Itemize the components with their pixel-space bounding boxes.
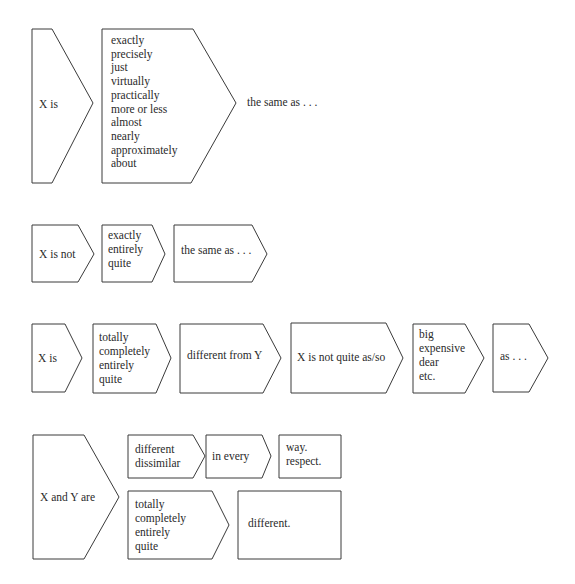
label-adjectives: big expensive dear etc. [419, 327, 465, 383]
label-totally-quite: totally completely entirely quite [99, 330, 150, 386]
label-line: expensive [419, 341, 465, 355]
label-line: X is [39, 97, 58, 111]
label-line: completely [135, 511, 186, 525]
label-line: completely [99, 344, 150, 358]
label-in-every: in every [212, 449, 249, 463]
label-line: dissimilar [135, 456, 180, 470]
label-line: totally [135, 497, 186, 511]
label-the-same-as-tail: the same as . . . [247, 95, 317, 109]
label-line: entirely [108, 242, 143, 256]
label-exactly-entirely-quite: exactly entirely quite [108, 228, 143, 270]
label-line: way. [286, 440, 321, 454]
label-different-from-y: different from Y [187, 348, 262, 362]
label-line: just [111, 61, 177, 75]
label-line: approximately [111, 144, 177, 158]
label-different: different. [248, 516, 290, 530]
label-line: totally [99, 330, 150, 344]
label-way-respect: way. respect. [286, 440, 321, 468]
label-as: as . . . [500, 349, 527, 363]
label-line: nearly [111, 130, 177, 144]
label-x-is-2: X is [38, 351, 57, 365]
label-not-quite-as-so: X is not quite as/so [297, 350, 385, 364]
label-line: practically [111, 89, 177, 103]
label-modifiers-list: exactly precisely just virtually practic… [111, 34, 177, 171]
label-line: about [111, 157, 177, 171]
label-line: quite [108, 256, 143, 270]
label-line: entirely [135, 525, 186, 539]
label-line: more or less [111, 103, 177, 117]
label-the-same-as: the same as . . . [181, 243, 251, 257]
label-totally-quite-2: totally completely entirely quite [135, 497, 186, 553]
label-line: different [135, 442, 180, 456]
label-line: entirely [99, 358, 150, 372]
label-line: respect. [286, 454, 321, 468]
label-line: dear [419, 355, 465, 369]
label-line: exactly [108, 228, 143, 242]
label-line: etc. [419, 369, 465, 383]
label-line: precisely [111, 48, 177, 62]
label-line: big [419, 327, 465, 341]
label-different-dissimilar: different dissimilar [135, 442, 180, 470]
label-x-is: X is [39, 97, 58, 111]
label-x-is-not: X is not [39, 247, 75, 261]
label-line: quite [99, 372, 150, 386]
label-x-and-y-are: X and Y are [40, 490, 95, 504]
label-line: almost [111, 116, 177, 130]
label-line: virtually [111, 75, 177, 89]
label-line: exactly [111, 34, 177, 48]
label-line: quite [135, 539, 186, 553]
